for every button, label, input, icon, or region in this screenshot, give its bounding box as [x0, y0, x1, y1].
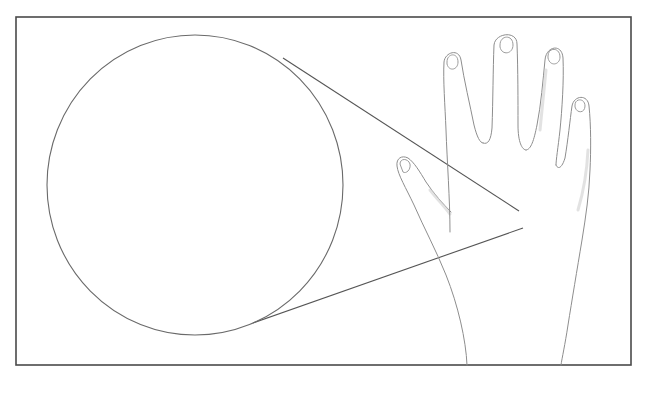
magnification-connectors — [253, 58, 523, 323]
ring-nail — [548, 49, 560, 64]
little-finger — [556, 97, 591, 365]
hand-edge-shading — [578, 150, 588, 210]
middle-nail — [500, 37, 513, 53]
illustration-canvas — [0, 0, 648, 402]
index-finger — [444, 53, 483, 232]
middle-finger — [483, 35, 526, 150]
little-nail — [575, 100, 585, 112]
illustration: Magnified dendritic cell in the skin of … — [0, 0, 648, 402]
hand-drawing — [397, 35, 591, 365]
thumb-shading — [430, 190, 450, 214]
connector-line-bottom — [253, 228, 523, 323]
ring-finger — [526, 48, 563, 165]
magnified-view — [47, 35, 343, 335]
connector-line-top — [283, 58, 519, 211]
index-nail — [447, 55, 458, 69]
thumb — [397, 157, 467, 365]
thumb-nail — [400, 160, 410, 173]
magnifier-circle — [47, 35, 343, 335]
figure-frame — [16, 17, 631, 365]
